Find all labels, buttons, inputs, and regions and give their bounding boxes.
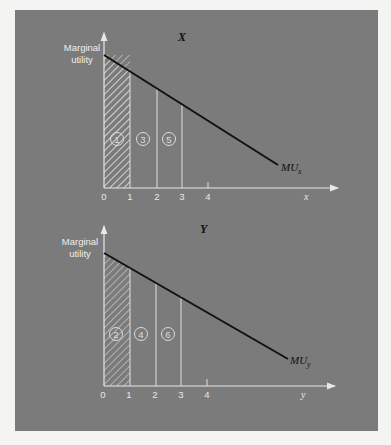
region-label-6: 6: [165, 329, 170, 340]
utility-charts: X Marginal utility MUx 1 3 5 0 1 2 3 4 x…: [0, 0, 391, 445]
chart-x: X Marginal utility MUx 1 3 5 0 1 2 3 4 x: [64, 30, 338, 202]
region-label-3: 3: [140, 134, 145, 145]
svg-text:0: 0: [101, 191, 106, 202]
chart-title-x: X: [177, 30, 187, 44]
hatched-region-2: [104, 253, 130, 386]
x-tick-labels: 0 1 2 3 4: [101, 191, 210, 202]
svg-text:1: 1: [127, 191, 132, 202]
region-label-2: 2: [113, 329, 118, 340]
curve-label-mu-y: MUy: [289, 354, 311, 369]
svg-text:0: 0: [100, 389, 105, 400]
region-label-4: 4: [138, 329, 143, 340]
svg-text:3: 3: [178, 389, 183, 400]
chart-y: Y Marginal utility MUy 2 4 6 0 1 2 3 4 y: [62, 222, 335, 400]
region-label-5: 5: [166, 134, 171, 145]
svg-text:2: 2: [154, 191, 159, 202]
svg-text:4: 4: [205, 191, 210, 202]
y-axis-label: Marginal: [62, 236, 98, 247]
svg-text:3: 3: [179, 191, 184, 202]
svg-text:1: 1: [126, 389, 131, 400]
svg-text:2: 2: [152, 389, 157, 400]
x-axis-label: y: [300, 389, 306, 400]
svg-text:4: 4: [204, 389, 209, 400]
curve-label-mu-x: MUx: [280, 161, 302, 176]
x-axis-label: x: [303, 191, 309, 202]
chart-title-y: Y: [200, 222, 209, 236]
y-axis-label: Marginal: [64, 42, 100, 53]
y-axis-label: utility: [69, 248, 91, 259]
y-axis-label: utility: [71, 54, 93, 65]
mu-y-curve: [104, 253, 288, 359]
x-tick-labels: 0 1 2 3 4: [100, 389, 209, 400]
region-label-1: 1: [114, 134, 119, 145]
